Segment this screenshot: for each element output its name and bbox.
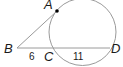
label-d: D [111,41,120,56]
geometry-diagram: A B C D 6 11 [0,0,123,67]
label-segment-bc: 6 [29,51,35,62]
point-a-dot [55,9,59,13]
label-segment-cd: 11 [73,51,84,62]
label-a: A [43,0,53,12]
label-b: B [4,41,13,56]
label-c: C [44,49,54,64]
